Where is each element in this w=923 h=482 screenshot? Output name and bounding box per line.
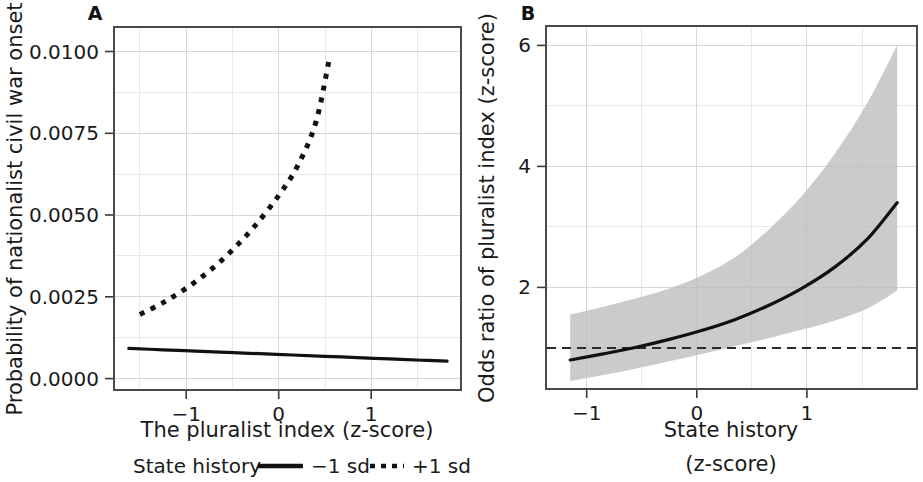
y-tick-label: 4 bbox=[518, 154, 531, 178]
legend-title: State history bbox=[133, 454, 261, 478]
panel-b-letter: B bbox=[521, 2, 535, 24]
y-tick-label: 0.0000 bbox=[29, 367, 99, 391]
y-tick-label: 2 bbox=[518, 275, 531, 299]
y-tick-label: 0.0100 bbox=[29, 40, 99, 64]
y-tick-label: 0.0025 bbox=[29, 285, 99, 309]
panel-a-x-axis-title: The pluralist index (z-score) bbox=[140, 418, 434, 442]
panel-b-x-axis-title-line1: State history bbox=[664, 418, 799, 442]
y-tick-label: 0.0050 bbox=[29, 203, 99, 227]
x-tick-label: −1 bbox=[572, 401, 601, 425]
figure-container: A Probability of nationalist civil war o… bbox=[0, 0, 923, 482]
legend-label-minus1sd: −1 sd bbox=[311, 454, 370, 478]
panel-a-letter: A bbox=[88, 2, 103, 24]
panel-b-x-axis-title-line2: (z-score) bbox=[685, 452, 776, 476]
legend-label-plus1sd: +1 sd bbox=[412, 454, 471, 478]
y-tick-label: 0.0075 bbox=[29, 121, 99, 145]
y-tick-label: 6 bbox=[518, 33, 531, 57]
two-panel-figure: A Probability of nationalist civil war o… bbox=[0, 0, 923, 482]
panel-b-y-axis-title: Odds ratio of pluralist index (z-score) bbox=[475, 13, 499, 403]
x-tick-label: 1 bbox=[801, 401, 814, 425]
panel-a-y-axis-title: Probability of nationalist civil war ons… bbox=[3, 2, 27, 415]
